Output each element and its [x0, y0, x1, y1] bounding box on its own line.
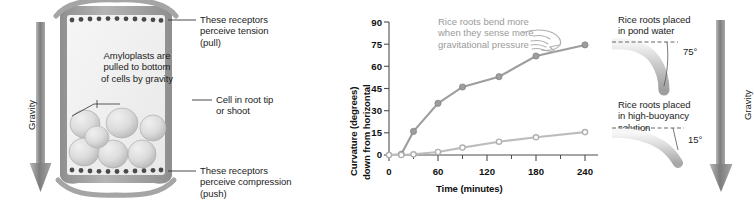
pointing-hand-icon	[522, 30, 561, 52]
amyloplast-cell-diagram: Gravity	[0, 0, 340, 203]
gravitropism-figure: Gravity	[0, 0, 754, 203]
rice-root-high-buoyancy-photo	[612, 133, 678, 163]
angle-label-15: 15°	[688, 134, 702, 145]
series-pond-water-line	[389, 45, 585, 155]
gravity-label-left: Gravity	[26, 100, 37, 130]
root-images-svg	[612, 0, 754, 203]
gravity-label-right: Gravity	[742, 90, 753, 120]
top-receptor-label: These receptors perceive tension (pull)	[200, 14, 268, 48]
angle-label-75: 75°	[683, 46, 697, 57]
curvature-line-chart: Curvature (degrees) down from horizontal…	[336, 0, 636, 203]
chart-plot-area	[336, 0, 636, 203]
series-pond-water-markers	[386, 42, 588, 158]
angle-leader-bottom	[673, 128, 678, 150]
root-curvature-photos: Rice roots placed in pond water Rice roo…	[612, 0, 754, 203]
y-axis-ticks	[384, 22, 389, 155]
series-high-buoyancy-line	[389, 132, 585, 155]
cell-label: Cell in root tip or shoot	[216, 94, 273, 117]
bottom-receptor-label: These receptors perceive compression (pu…	[200, 165, 291, 199]
x-axis-ticks-major	[389, 155, 585, 161]
rice-root-pond-water-photo	[612, 44, 664, 90]
